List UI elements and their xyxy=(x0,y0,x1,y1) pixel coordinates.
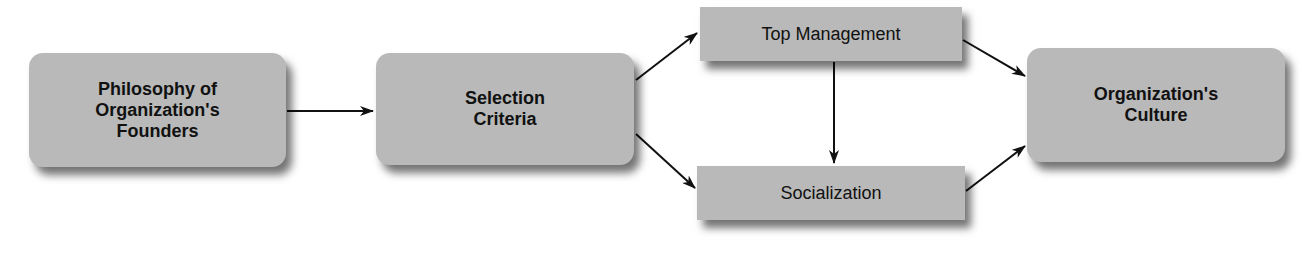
node-label: Socialization xyxy=(780,183,881,204)
node-label-line: Philosophy of xyxy=(95,79,219,100)
node-founders-philosophy: Philosophy of Organization's Founders xyxy=(29,53,286,167)
node-label-line: Criteria xyxy=(465,109,545,130)
node-label-line: Organization's xyxy=(95,100,219,121)
node-label-line: Selection xyxy=(465,88,545,109)
node-organization-culture: Organization's Culture xyxy=(1027,48,1285,162)
node-label-line: Culture xyxy=(1094,105,1218,126)
node-label: Top Management xyxy=(761,24,900,45)
arrow-top-management-to-culture xyxy=(963,40,1025,76)
node-socialization: Socialization xyxy=(697,166,965,220)
node-top-management: Top Management xyxy=(700,7,962,61)
node-label-line: Founders xyxy=(95,121,219,142)
arrow-selection-to-socialization xyxy=(636,134,695,188)
arrow-socialization-to-culture xyxy=(966,146,1025,191)
node-label-line: Organization's xyxy=(1094,84,1218,105)
arrow-selection-to-top-management xyxy=(636,33,697,80)
node-selection-criteria: Selection Criteria xyxy=(376,53,634,165)
